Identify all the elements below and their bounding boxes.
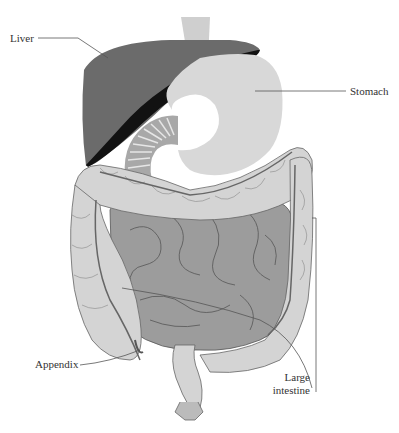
stomach-label: Stomach — [350, 85, 389, 98]
large-intestine-label-line1: Large — [280, 371, 310, 384]
liver-label: Liver — [10, 32, 34, 45]
stomach — [166, 54, 282, 175]
rectum — [173, 345, 203, 420]
large-intestine-label-line2: intestine — [265, 384, 310, 397]
appendix-label: Appendix — [35, 358, 78, 371]
liver-leader-line — [38, 38, 108, 58]
